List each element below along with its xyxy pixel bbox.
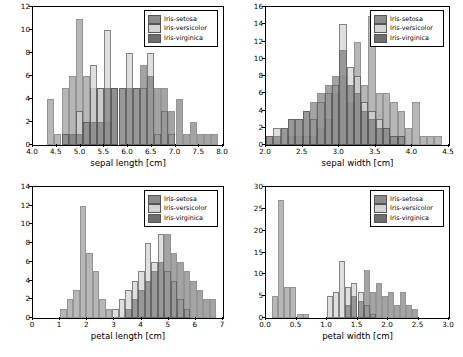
legend-row-virginica: Iris-virginica xyxy=(148,214,213,223)
histogram-bar xyxy=(62,134,69,146)
histogram-bar xyxy=(310,102,317,145)
x-tick-label: 2.0 xyxy=(259,147,270,156)
legend-swatch-setosa xyxy=(374,15,387,24)
y-tick-label: 5 xyxy=(239,291,263,300)
histogram-bar xyxy=(361,111,368,146)
histogram-bar xyxy=(190,122,197,145)
histogram-bar xyxy=(190,281,197,318)
legend-label-setosa: Iris-setosa xyxy=(164,16,197,23)
x-tick-mark xyxy=(86,317,87,320)
y-tick-mark xyxy=(262,295,265,296)
histogram-bar xyxy=(176,99,183,145)
y-tick-mark xyxy=(262,58,265,59)
y-tick-label: 2 xyxy=(6,117,30,126)
x-tick-mark xyxy=(198,144,199,147)
histogram-bar xyxy=(339,50,346,145)
y-tick-label: 12 xyxy=(6,2,30,11)
x-tick-mark xyxy=(418,317,419,320)
histogram-bar xyxy=(106,309,113,318)
y-tick-label: 10 xyxy=(239,269,263,278)
x-tick-mark xyxy=(175,144,176,147)
x-tick-label: 4 xyxy=(138,320,143,329)
histogram-bar xyxy=(288,119,295,145)
histogram-bar xyxy=(147,76,154,145)
histogram-bar xyxy=(90,122,97,145)
y-tick-mark xyxy=(262,110,265,111)
legend-row-virginica: Iris-virginica xyxy=(374,34,439,43)
legend-label-setosa: Iris-setosa xyxy=(164,196,197,203)
y-tick-mark xyxy=(29,261,32,262)
legend-label-versicolor: Iris-versicolor xyxy=(164,205,207,212)
x-tick-mark xyxy=(32,317,33,320)
x-tick-label: 6 xyxy=(193,320,198,329)
x-tick-label: 2.5 xyxy=(412,320,423,329)
y-tick-label: 4 xyxy=(6,275,30,284)
y-tick-label: 4 xyxy=(239,105,263,114)
legend-row-setosa: Iris-setosa xyxy=(148,195,213,204)
x-tick-mark xyxy=(103,144,104,147)
x-tick-mark xyxy=(56,144,57,147)
x-tick-mark xyxy=(265,144,266,147)
histogram-bar xyxy=(126,88,133,146)
histogram-bar xyxy=(47,99,54,145)
x-tick-mark xyxy=(151,144,152,147)
histogram-bar xyxy=(347,85,354,145)
x-tick-label: 3.0 xyxy=(442,320,453,329)
legend-row-versicolor: Iris-versicolor xyxy=(148,24,213,33)
legend-swatch-setosa xyxy=(374,195,387,204)
y-tick-mark xyxy=(262,23,265,24)
y-tick-mark xyxy=(262,230,265,231)
y-tick-mark xyxy=(262,75,265,76)
x-tick-mark xyxy=(265,317,266,320)
y-tick-mark xyxy=(29,280,32,281)
y-tick-mark xyxy=(29,52,32,53)
y-tick-label: 8 xyxy=(6,238,30,247)
histogram-bar xyxy=(203,299,210,318)
x-tick-label: 7.5 xyxy=(193,147,204,156)
y-tick-mark xyxy=(262,273,265,274)
histogram-bar xyxy=(317,93,324,145)
y-tick-label: 6 xyxy=(239,88,263,97)
legend-label-virginica: Iris-virginica xyxy=(390,215,429,222)
x-tick-label: 3.0 xyxy=(332,147,343,156)
x-tick-mark xyxy=(302,144,303,147)
y-tick-mark xyxy=(29,29,32,30)
y-tick-mark xyxy=(262,92,265,93)
y-tick-mark xyxy=(262,208,265,209)
histogram-bar xyxy=(97,122,104,145)
legend-row-virginica: Iris-virginica xyxy=(374,214,439,223)
legend-sepal-width: Iris-setosa Iris-versicolor Iris-virgini… xyxy=(370,10,444,47)
histogram-bar xyxy=(303,314,309,318)
histogram-bar xyxy=(412,102,419,145)
histogram-bar xyxy=(434,136,441,145)
histogram-bar xyxy=(138,290,145,318)
histogram-bar xyxy=(69,134,76,146)
y-tick-label: 12 xyxy=(6,200,30,209)
x-tick-mark xyxy=(411,144,412,147)
histogram-bar xyxy=(119,88,126,146)
legend-swatch-setosa xyxy=(148,195,161,204)
histogram-bar xyxy=(390,136,397,145)
y-tick-label: 10 xyxy=(6,219,30,228)
x-tick-mark xyxy=(127,144,128,147)
x-tick-label: 1.5 xyxy=(351,320,362,329)
y-tick-mark xyxy=(29,6,32,7)
x-tick-label: 0.5 xyxy=(290,320,301,329)
histogram-bar xyxy=(383,128,390,145)
x-tick-label: 6.5 xyxy=(145,147,156,156)
xlabel-petal-length: petal length [cm] xyxy=(32,331,224,341)
legend-label-virginica: Iris-virginica xyxy=(390,35,429,42)
y-tick-mark xyxy=(29,186,32,187)
x-tick-label: 8.0 xyxy=(216,147,227,156)
legend-swatch-versicolor xyxy=(148,204,161,213)
x-tick-label: 1 xyxy=(57,320,62,329)
legend-row-setosa: Iris-setosa xyxy=(374,195,439,204)
histogram-bar xyxy=(295,119,302,145)
histogram-bar xyxy=(119,299,126,318)
y-tick-label: 2 xyxy=(239,122,263,131)
y-tick-label: 2 xyxy=(6,294,30,303)
x-tick-label: 5 xyxy=(165,320,170,329)
x-tick-mark xyxy=(296,317,297,320)
x-tick-label: 5.0 xyxy=(74,147,85,156)
y-tick-label: 20 xyxy=(239,225,263,234)
